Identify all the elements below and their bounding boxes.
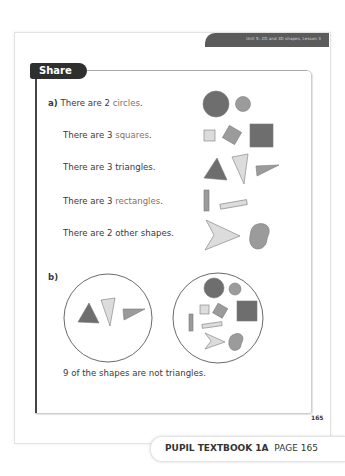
square-small-icon <box>204 130 215 141</box>
footer-book: PUPIL TEXTBOOK 1A <box>165 443 269 453</box>
circle-large-icon <box>203 91 229 117</box>
square-rotated-icon <box>213 303 228 318</box>
square-rotated-icon <box>222 125 241 144</box>
square-large-icon <box>250 124 273 147</box>
circle-small-icon <box>236 97 251 112</box>
footer-reference: PUPIL TEXTBOOK 1A PAGE 165 <box>165 443 318 453</box>
triangle-dark-icon <box>204 158 227 180</box>
rectangle-vertical-icon <box>189 314 193 331</box>
triangle-dark-icon <box>78 303 99 323</box>
square-small-icon <box>200 305 209 314</box>
rectangle-horizontal-icon <box>202 322 222 329</box>
rectangle-vertical-icon <box>204 190 209 211</box>
rectangle-horizontal-icon <box>220 200 247 210</box>
arrow-shape-icon <box>205 333 225 349</box>
circle-large-icon <box>204 278 224 298</box>
kidney-shape-icon <box>250 224 270 249</box>
arrow-shape-icon <box>205 220 240 250</box>
kidney-shape-icon <box>229 334 243 351</box>
square-large-icon <box>237 301 257 321</box>
triangle-light-icon <box>232 154 248 184</box>
part-b-other-shapes <box>189 278 257 350</box>
part-a-shapes <box>203 91 279 250</box>
triangle-mid-icon <box>256 165 279 176</box>
page-number: 165 <box>311 414 324 421</box>
triangle-mid-icon <box>123 309 145 320</box>
triangle-light-icon <box>101 298 115 326</box>
footer-page: PAGE 165 <box>274 443 318 453</box>
part-b-triangles <box>78 298 145 326</box>
circle-small-icon <box>229 283 241 295</box>
